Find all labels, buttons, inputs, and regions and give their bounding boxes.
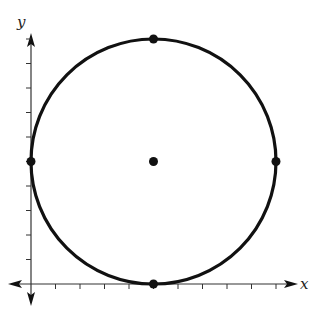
point-top — [149, 35, 158, 44]
axes — [8, 33, 298, 306]
data-points — [27, 35, 281, 289]
point-bottom — [149, 280, 158, 289]
x-axis-label: x — [300, 275, 309, 293]
circle-graph: x y — [0, 0, 314, 309]
coordinate-plane-figure: x y — [0, 0, 314, 309]
y-axis-label: y — [16, 13, 26, 31]
point-right — [272, 157, 281, 166]
point-center — [149, 157, 158, 166]
point-left — [27, 157, 36, 166]
